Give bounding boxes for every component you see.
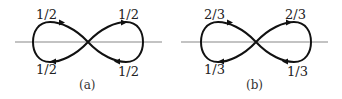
- label-top-left: 1/2: [36, 8, 57, 21]
- label-bottom-left: 1/3: [204, 63, 225, 76]
- caption: (a): [79, 79, 96, 91]
- caption: (b): [246, 79, 263, 91]
- label-top-left: 2/3: [204, 8, 225, 21]
- label-bottom-right: 1/3: [287, 65, 308, 78]
- label-top-right: 2/3: [285, 8, 306, 21]
- panel-b: 2/3 2/3 1/3 1/3 (b): [171, 0, 342, 99]
- label-bottom-right: 1/2: [118, 65, 139, 78]
- label-bottom-left: 1/2: [36, 63, 57, 76]
- panel-a: 1/2 1/2 1/2 1/2 (a): [0, 0, 171, 99]
- label-top-right: 1/2: [118, 8, 139, 21]
